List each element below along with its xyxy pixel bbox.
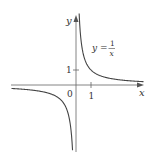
function-label-denominator: x xyxy=(110,49,115,58)
x-tick-label-1: 1 xyxy=(89,91,95,101)
x-axis-label: x xyxy=(139,87,145,98)
y-tick-label-1: 1 xyxy=(66,65,72,75)
function-label-numerator: 1 xyxy=(110,39,115,48)
function-label-lhs: y = xyxy=(91,43,108,53)
origin-label: 0 xyxy=(67,89,73,99)
curve-negative-branch xyxy=(12,88,73,150)
hyperbola-plot: y x 0 1 1 y = 1 x xyxy=(0,0,153,156)
y-axis-label: y xyxy=(65,15,72,26)
y-axis-arrow-icon xyxy=(74,15,79,22)
